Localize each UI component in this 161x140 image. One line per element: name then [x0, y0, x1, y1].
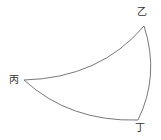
arc-yi-ding — [138, 26, 151, 120]
arc-bing-yi — [24, 26, 144, 80]
vertex-label-ding: 丁 — [135, 123, 145, 133]
arc-bing-ding — [24, 80, 138, 120]
vertex-label-bing: 丙 — [9, 75, 19, 85]
vertex-label-yi: 乙 — [137, 7, 147, 17]
spherical-triangle-diagram — [0, 0, 161, 140]
